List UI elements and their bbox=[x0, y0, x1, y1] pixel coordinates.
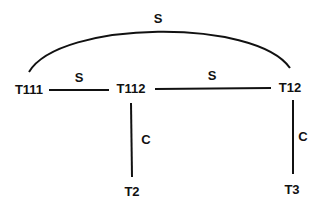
diagram-edges bbox=[0, 0, 320, 208]
node-t112: T112 bbox=[117, 82, 146, 95]
edge-label-t112-t12: S bbox=[208, 69, 217, 82]
relation-diagram: T111 T112 T12 T2 T3 S S S C C bbox=[0, 0, 320, 208]
node-t12: T12 bbox=[279, 81, 301, 94]
edge-label-t112-t2: C bbox=[141, 133, 150, 146]
edge-t112-t2 bbox=[131, 103, 132, 177]
node-t3: T3 bbox=[284, 183, 299, 196]
edge-t112-t12 bbox=[155, 88, 271, 89]
edge-label-t111-t112: S bbox=[75, 71, 84, 84]
edge-label-arc: S bbox=[154, 12, 163, 25]
node-t111: T111 bbox=[15, 83, 43, 96]
edge-label-t12-t3: C bbox=[298, 130, 307, 143]
node-t2: T2 bbox=[124, 185, 139, 198]
edge-arc-t111-t12 bbox=[29, 32, 290, 72]
